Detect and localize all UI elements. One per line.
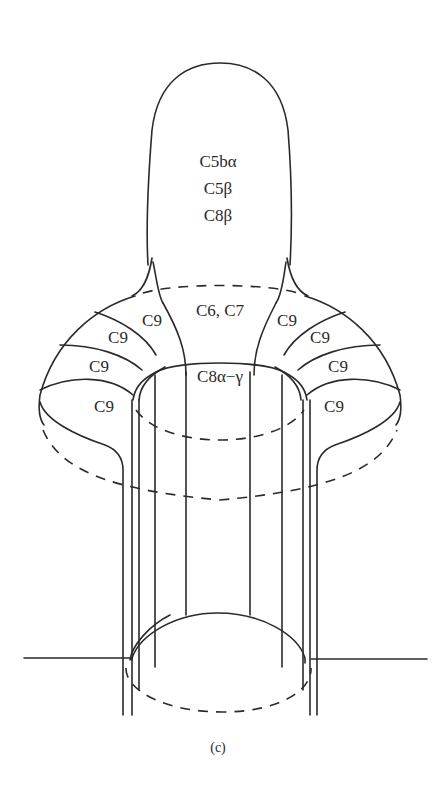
label-c9-left-3: C9 xyxy=(89,357,109,376)
tube-inner-ring-right xyxy=(275,367,301,400)
collar-outer-left xyxy=(39,296,135,425)
label-c9-right-4: C9 xyxy=(324,397,344,416)
label-c9-left-4: C9 xyxy=(94,397,114,416)
tube-mid-dashed-ring xyxy=(136,410,304,440)
label-c8-alpha-gamma: C8α−γ xyxy=(197,367,243,386)
label-c9-right-3: C9 xyxy=(328,357,348,376)
collar-lip-right xyxy=(317,402,400,715)
label-c6-c7: C6, C7 xyxy=(196,301,245,320)
label-c9-right-1: C9 xyxy=(277,311,297,330)
label-c9-left-1: C9 xyxy=(142,311,162,330)
c9-divider-right-3 xyxy=(307,379,400,395)
tube-vertical-lines xyxy=(132,372,310,715)
collar-lip-left xyxy=(40,402,123,715)
figure-caption: (c) xyxy=(210,740,226,756)
membrane-attack-complex-diagram: C5bα C5β C8β C6, C7 C8α−γ C9 C9 C9 C9 C9… xyxy=(0,0,442,796)
label-c5-beta: C5β xyxy=(204,179,233,198)
bulb-neck-left xyxy=(132,258,152,296)
c9-divider-left-3 xyxy=(40,379,133,395)
c9-inner-arc-right-a xyxy=(254,303,276,375)
collar-outer-right xyxy=(305,296,401,425)
collar-back-dashed-ring xyxy=(143,286,298,294)
pore-front-arc xyxy=(132,613,305,663)
c9-inner-arc-left-a xyxy=(163,303,186,375)
tube-inner-ring-left xyxy=(139,367,165,400)
bulb-neck-right-inner xyxy=(276,262,286,303)
pore-back-dashed xyxy=(126,668,311,712)
label-c5b-alpha: C5bα xyxy=(199,152,236,171)
label-c9-left-2: C9 xyxy=(108,328,128,347)
pore-front-arc-sides xyxy=(130,615,170,660)
label-c9-right-2: C9 xyxy=(310,328,330,347)
label-c8-beta: C8β xyxy=(204,206,233,225)
bulb-neck-left-inner xyxy=(153,262,163,303)
